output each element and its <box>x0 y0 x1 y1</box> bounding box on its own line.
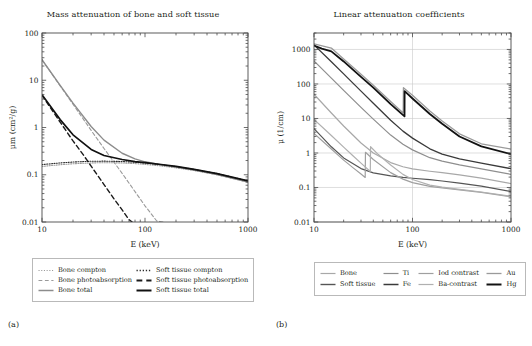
legend-b-item[interactable]: Au <box>486 269 520 278</box>
x-tick-label: 10 <box>309 225 319 234</box>
y-tick-label: 0.1 <box>299 183 311 192</box>
legend-b-item[interactable]: Fe <box>383 280 417 289</box>
y-tick-label: 0.01 <box>294 218 310 227</box>
legend-swatch <box>320 281 336 288</box>
legend-swatch <box>418 281 434 288</box>
legend-label: Soft tissue photoabsorption <box>156 276 248 285</box>
y-tick-label: 0.1 <box>27 170 39 179</box>
legend-label: Bone compton <box>58 266 106 275</box>
legend-swatch <box>418 270 434 277</box>
legend-b-item[interactable]: Ba-contrast <box>418 280 484 289</box>
y-tick-label: 10 <box>301 114 311 123</box>
legend-swatch <box>136 287 152 294</box>
y-axis-label: μ (1/cm) <box>276 111 285 144</box>
y-tick-label: 0.01 <box>22 218 38 227</box>
legend-a-item[interactable]: Soft tissue photoabsorption <box>136 276 248 285</box>
legend-a-item[interactable]: Bone compton <box>38 266 132 275</box>
legend-b-item[interactable]: Hg <box>486 280 520 289</box>
y-axis-label: μm (cm²/g) <box>8 106 17 150</box>
legend-a-item[interactable]: Bone photoabsorption <box>38 276 132 285</box>
x-tick-label: 100 <box>138 225 152 234</box>
legend-label: Bone photoabsorption <box>58 276 132 285</box>
panel-b: Linear attenuation coefficients 10100100… <box>266 0 532 346</box>
x-tick-label: 1000 <box>239 225 258 234</box>
legend-a-item[interactable]: Soft tissue total <box>136 286 248 295</box>
series-line <box>42 95 248 181</box>
legend-swatch <box>383 281 399 288</box>
x-axis-label: E (keV) <box>398 240 427 249</box>
legend-swatch <box>486 270 502 277</box>
x-axis-label: E (keV) <box>130 240 159 249</box>
legend-a: Bone comptonSoft tissue comptonBone phot… <box>32 258 254 302</box>
legend-label: Bone total <box>58 286 92 295</box>
legend-swatch <box>38 287 54 294</box>
legend-label: Au <box>506 269 515 278</box>
linear-attenuation-plot: 1010010000.010.11101001000E (keV)μ (1/cm… <box>266 0 532 250</box>
legend-label: Bone <box>340 269 357 278</box>
x-tick-label: 100 <box>405 225 419 234</box>
legend-b: BoneTiIod contrastAuSoft tissueFeBa-cont… <box>314 262 526 296</box>
y-tick-label: 100 <box>296 80 310 89</box>
x-tick-label: 1000 <box>502 225 521 234</box>
legend-swatch <box>38 277 54 284</box>
legend-label: Fe <box>403 280 411 289</box>
legend-label: Soft tissue compton <box>156 266 222 275</box>
legend-label: Soft tissue <box>340 280 375 289</box>
legend-b-item[interactable]: Soft tissue <box>320 280 381 289</box>
legend-b-item[interactable]: Bone <box>320 269 381 278</box>
legend-swatch <box>38 267 54 274</box>
figure-root: Mass attenuation of bone and soft tissue… <box>0 0 532 346</box>
legend-swatch <box>136 267 152 274</box>
y-tick-label: 1 <box>34 123 39 132</box>
legend-a-item[interactable]: Soft tissue compton <box>136 266 248 275</box>
panel-a: Mass attenuation of bone and soft tissue… <box>0 0 266 346</box>
x-tick-label: 10 <box>37 225 47 234</box>
legend-b-item[interactable]: Ti <box>383 269 417 278</box>
y-tick-label: 1 <box>306 149 311 158</box>
legend-b-item[interactable]: Iod contrast <box>418 269 484 278</box>
legend-swatch <box>486 281 502 288</box>
legend-swatch <box>320 270 336 277</box>
legend-a-item[interactable]: Bone total <box>38 286 132 295</box>
legend-swatch <box>136 277 152 284</box>
mass-attenuation-plot: 1010010000.010.1110100E (keV)μm (cm²/g) <box>0 0 266 250</box>
legend-label: Hg <box>506 280 516 289</box>
y-tick-label: 1000 <box>292 45 311 54</box>
plot-frame <box>42 33 248 222</box>
legend-label: Soft tissue total <box>156 286 209 295</box>
panel-sublabel-b: (b) <box>276 320 287 329</box>
legend-swatch <box>383 270 399 277</box>
legend-label: Iod contrast <box>438 269 479 278</box>
series-line <box>42 163 248 182</box>
legend-label: Ba-contrast <box>438 280 477 289</box>
panel-sublabel-a: (a) <box>8 320 19 329</box>
series-line <box>42 60 163 222</box>
y-tick-label: 10 <box>29 76 39 85</box>
legend-label: Ti <box>403 269 410 278</box>
y-tick-label: 100 <box>24 29 38 38</box>
